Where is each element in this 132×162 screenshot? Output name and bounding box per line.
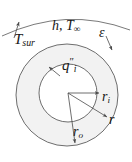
label-surroundings-temperature: Tsur	[14, 32, 35, 47]
label-radius-symbol: r	[109, 112, 114, 127]
label-inner-heat-flux: q″i	[62, 58, 77, 73]
heat-transfer-diagram: Tsur h, T∞ ε q″i ri r ro	[0, 0, 132, 162]
label-emissivity: ε	[99, 26, 105, 40]
emissivity-arrow	[106, 36, 112, 50]
label-convection: h, T∞	[52, 19, 80, 33]
label-outer-radius: ro	[73, 125, 83, 139]
label-inner-radius-sub: i	[107, 95, 110, 105]
label-radius: r	[109, 113, 114, 127]
label-outer-radius-sub: o	[78, 130, 83, 140]
label-inner-heat-flux-sub: i	[74, 63, 77, 74]
label-inner-heat-flux-symbol: q	[62, 57, 70, 73]
label-convection-symbol: h, T	[52, 18, 74, 33]
label-surroundings-temperature-sub: sur	[22, 37, 35, 48]
label-convection-sub: ∞	[74, 24, 81, 34]
label-inner-radius: ri	[102, 90, 110, 104]
label-emissivity-symbol: ε	[99, 25, 105, 40]
